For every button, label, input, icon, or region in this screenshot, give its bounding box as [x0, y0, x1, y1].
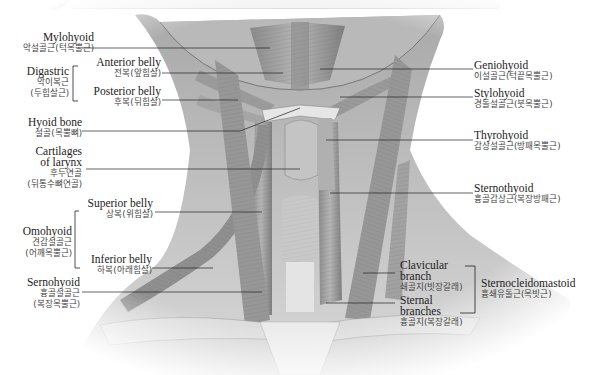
- label-sternal-branches: Sternal branches 흉골지(복장갈래): [400, 295, 463, 328]
- label-ko: 후두연골: [27, 168, 82, 179]
- label-en: Superior belly: [88, 198, 153, 209]
- label-en: Thyrohyoid: [474, 130, 561, 141]
- label-en-line2: of larynx: [27, 157, 82, 168]
- label-ko: 흉쇄유돌근(목빗근): [481, 289, 576, 300]
- label-sternocleidomastoid: Sternocleidomastoid 흉쇄유돌근(목빗근): [481, 278, 576, 300]
- label-clavicular-branch: Clavicular branch 쇄골지(빗장갈래): [400, 260, 463, 293]
- label-omohyoid: Omohyoid 견갑설골근 (어깨목뿔근): [23, 226, 72, 258]
- label-ko: 흉골설골근: [27, 288, 80, 299]
- label-ko: 상복(위힘살): [88, 209, 153, 220]
- label-ko: 전복(앞힘살): [96, 68, 161, 79]
- label-en-line2: branches: [400, 306, 463, 317]
- label-stylohyoid: Stylohyoid 경돌설골근(붓목뿔근): [474, 88, 553, 110]
- label-sternohyoid: Sernohyoid 흉골설골근 (복장목뿔근): [27, 277, 80, 309]
- anatomy-figure: Mylohyoid 악설골근(턱목뿔근) Digastric 악이복근 (두힘살…: [0, 0, 594, 375]
- label-en: Geniohyoid: [474, 60, 553, 71]
- label-ko: 흉골갑상근(복장방패근): [474, 194, 561, 205]
- label-ko: 설골(목뿔뼈): [28, 128, 82, 139]
- label-inferior-belly: Inferior belly 하복(아래힘살): [91, 254, 152, 276]
- label-ko: 후복(뒤힘살): [94, 97, 161, 108]
- label-en: Anterior belly: [96, 57, 161, 68]
- label-posterior-belly: Posterior belly 후복(뒤힘살): [94, 86, 161, 108]
- label-en: Stylohyoid: [474, 88, 553, 99]
- label-ko: 흉골지(복장갈래): [400, 317, 463, 328]
- label-en-line2: branch: [400, 271, 463, 282]
- label-en: Inferior belly: [91, 254, 152, 265]
- label-ko: 갑상설골근(방패목뿔근): [474, 141, 561, 152]
- label-ko-alt: (뒤통수뼈연골): [27, 179, 82, 190]
- label-ko-alt: (복장목뿔근): [27, 299, 80, 310]
- label-en: Omohyoid: [23, 226, 72, 237]
- label-ko: 하복(아래힘살): [91, 265, 152, 276]
- label-en: Hyoid bone: [28, 117, 82, 128]
- label-thyrohyoid: Thyrohyoid 갑상설골근(방패목뿔근): [474, 130, 561, 152]
- label-en: Sternothyoid: [474, 183, 561, 194]
- label-en: Sernohyoid: [27, 277, 80, 288]
- label-ko: 경돌설골근(붓목뿔근): [474, 99, 553, 110]
- label-digastric: Digastric 악이복근 (두힘살근): [27, 66, 69, 98]
- label-superior-belly: Superior belly 상복(위힘살): [88, 198, 153, 220]
- label-en: Sternocleidomastoid: [481, 278, 576, 289]
- label-geniohyoid: Geniohyoid 이설골근(턱끝목뿔근): [474, 60, 553, 82]
- label-en: Digastric: [27, 66, 69, 77]
- label-ko: 이설골근(턱끝목뿔근): [474, 71, 553, 82]
- label-cartilages-of-larynx: Cartilages of larynx 후두연골 (뒤통수뼈연골): [27, 146, 82, 189]
- label-ko-alt: (어깨목뿔근): [23, 248, 72, 259]
- label-ko: 견갑설골근: [23, 237, 72, 248]
- label-ko-alt: (두힘살근): [27, 88, 69, 99]
- label-anterior-belly: Anterior belly 전복(앞힘살): [96, 57, 161, 79]
- label-en: Posterior belly: [94, 86, 161, 97]
- label-en: Mylohyoid: [23, 32, 94, 43]
- label-hyoid-bone: Hyoid bone 설골(목뿔뼈): [28, 117, 82, 139]
- label-ko: 악이복근: [27, 77, 69, 88]
- label-mylohyoid: Mylohyoid 악설골근(턱목뿔근): [23, 32, 94, 54]
- label-ko: 악설골근(턱목뿔근): [23, 43, 94, 54]
- label-sternothyroid: Sternothyoid 흉골갑상근(복장방패근): [474, 183, 561, 205]
- label-ko: 쇄골지(빗장갈래): [400, 282, 463, 293]
